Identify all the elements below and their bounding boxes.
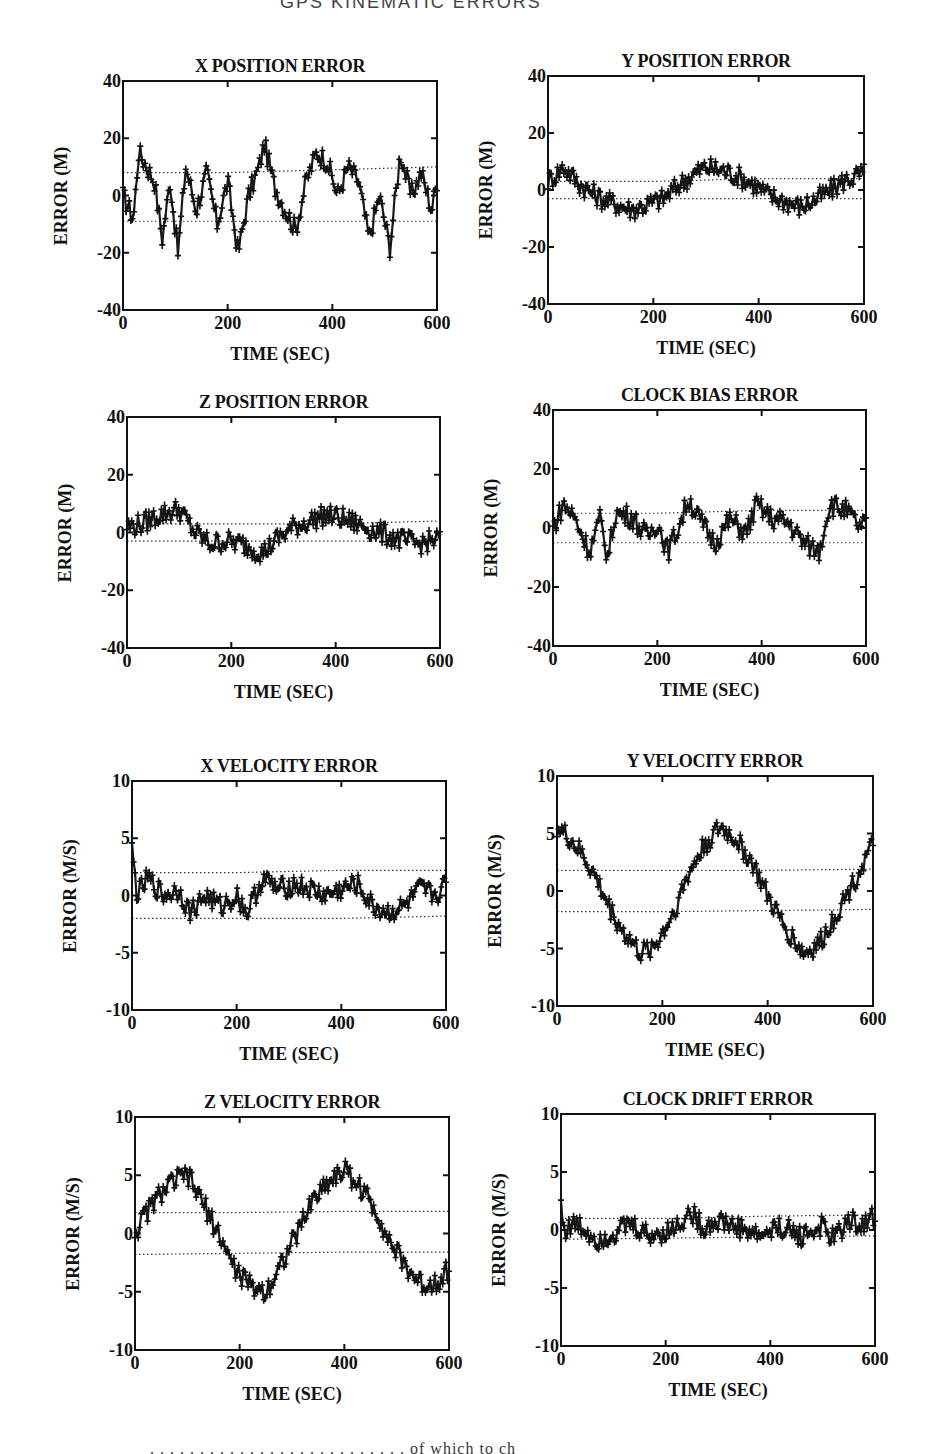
x-axis-label: TIME (SEC): [668, 1380, 768, 1401]
x-tick-label: 200: [214, 313, 241, 334]
plot-area: [557, 776, 873, 1006]
y-axis-label: ERROR (M): [476, 141, 497, 239]
plot-area: [127, 417, 440, 648]
plot-frame: [557, 776, 873, 1006]
sigma-bound-upper: [557, 869, 873, 870]
x-tick-label: 600: [433, 1013, 460, 1034]
y-axis-label: ERROR (M): [51, 146, 72, 244]
x-tick-label: 200: [649, 1009, 676, 1030]
y-tick-label: -20: [527, 577, 551, 598]
x-axis-label: TIME (SEC): [239, 1044, 339, 1065]
chart-panel-x-position: [123, 81, 437, 310]
y-tick-label: 0: [124, 1223, 133, 1244]
y-tick-label: -40: [522, 294, 546, 315]
x-tick-label: 0: [557, 1349, 566, 1370]
y-axis-label: ERROR (M): [481, 479, 502, 577]
y-tick-label: 0: [546, 881, 555, 902]
x-tick-label: 0: [123, 651, 132, 672]
y-axis-label: ERROR (M): [55, 483, 76, 581]
y-tick-label: 20: [528, 123, 546, 144]
y-tick-label: 10: [537, 766, 555, 787]
chart-title: X POSITION ERROR: [195, 56, 365, 77]
x-tick-label: 0: [544, 307, 553, 328]
plot-area: [123, 81, 437, 310]
plus-markers: [550, 492, 869, 564]
x-axis-label: TIME (SEC): [665, 1040, 765, 1061]
chart-title: Y VELOCITY ERROR: [627, 751, 804, 772]
y-tick-label: 5: [550, 1162, 559, 1183]
y-tick-label: 5: [124, 1165, 133, 1186]
y-tick-label: 10: [112, 771, 130, 792]
x-tick-label: 200: [226, 1353, 253, 1374]
x-tick-label: 400: [319, 313, 346, 334]
x-tick-label: 400: [748, 649, 775, 670]
y-tick-label: -5: [544, 1278, 559, 1299]
sigma-bound-upper: [548, 179, 864, 182]
y-tick-label: 10: [541, 1104, 559, 1125]
x-tick-label: 200: [652, 1349, 679, 1370]
plus-markers: [124, 498, 443, 566]
chart-panel-x-velocity: [132, 781, 446, 1010]
y-tick-label: 40: [107, 407, 125, 428]
plot-frame: [553, 410, 866, 646]
x-tick-label: 400: [757, 1349, 784, 1370]
x-axis-label: TIME (SEC): [234, 682, 334, 703]
y-tick-label: 20: [103, 128, 121, 149]
chart-title: CLOCK DRIFT ERROR: [623, 1089, 814, 1110]
y-tick-label: -20: [522, 237, 546, 258]
y-tick-label: -5: [115, 942, 130, 963]
x-tick-label: 400: [322, 651, 349, 672]
plot-area: [132, 781, 446, 1010]
y-tick-label: 20: [533, 459, 551, 480]
sigma-bound-lower: [132, 916, 446, 918]
y-tick-label: -5: [118, 1281, 133, 1302]
x-tick-label: 200: [218, 651, 245, 672]
chart-title: Y POSITION ERROR: [621, 51, 791, 72]
y-tick-label: -10: [109, 1340, 133, 1361]
y-tick-label: 0: [542, 518, 551, 539]
bottom-partial-caption: . . . . . . . . . . . . . . . . . . . . …: [150, 1440, 516, 1454]
x-tick-label: 0: [128, 1013, 137, 1034]
x-axis-label: TIME (SEC): [656, 338, 756, 359]
y-tick-label: 0: [112, 185, 121, 206]
x-axis-label: TIME (SEC): [242, 1384, 342, 1405]
tick-marks: [553, 410, 866, 646]
y-tick-label: 10: [115, 1107, 133, 1128]
chart-panel-z-velocity: [135, 1117, 449, 1350]
y-tick-label: 5: [546, 823, 555, 844]
sigma-bound-upper: [135, 1211, 449, 1212]
sigma-bound-upper: [132, 870, 446, 872]
x-tick-label: 0: [131, 1353, 140, 1374]
y-tick-label: -10: [106, 1000, 130, 1021]
x-tick-label: 200: [223, 1013, 250, 1034]
y-tick-label: 40: [103, 71, 121, 92]
x-tick-label: 400: [331, 1353, 358, 1374]
plot-area: [548, 76, 864, 304]
chart-panel-z-position: [127, 417, 440, 648]
x-tick-label: 200: [640, 307, 667, 328]
plus-markers: [132, 1158, 452, 1304]
y-axis-label: ERROR (M/S): [489, 1173, 510, 1287]
y-tick-label: 40: [533, 400, 551, 421]
y-tick-label: 5: [121, 828, 130, 849]
chart-title: CLOCK BIAS ERROR: [621, 385, 798, 406]
y-tick-label: 0: [537, 180, 546, 201]
x-tick-label: 600: [862, 1349, 889, 1370]
y-tick-label: 0: [116, 522, 125, 543]
x-tick-label: 400: [754, 1009, 781, 1030]
x-tick-label: 600: [427, 651, 454, 672]
x-tick-label: 600: [436, 1353, 463, 1374]
chart-panel-y-velocity: [557, 776, 873, 1006]
y-tick-label: -5: [540, 938, 555, 959]
y-tick-label: -20: [101, 580, 125, 601]
y-tick-label: 40: [528, 66, 546, 87]
x-tick-label: 400: [745, 307, 772, 328]
x-tick-label: 200: [644, 649, 671, 670]
sigma-bound-upper: [127, 521, 440, 524]
plot-area: [561, 1114, 875, 1346]
plus-markers: [129, 839, 449, 924]
x-tick-label: 600: [424, 313, 451, 334]
chart-title: X VELOCITY ERROR: [200, 756, 377, 777]
top-partial-caption: GPS KINEMATIC ERRORS: [280, 0, 542, 13]
x-axis-label: TIME (SEC): [660, 680, 760, 701]
